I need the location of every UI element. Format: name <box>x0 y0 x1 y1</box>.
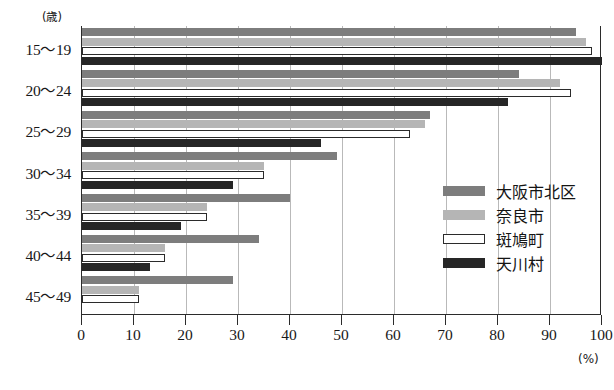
y-axis-tick-label: 25～29 <box>25 119 71 141</box>
bar <box>82 213 207 221</box>
bar <box>82 152 337 160</box>
legend-label: 大阪市北区 <box>496 179 576 203</box>
bar <box>82 70 519 78</box>
legend-label: 斑鳩町 <box>496 227 544 251</box>
bar <box>82 235 259 243</box>
legend-item: 天川村 <box>443 252 591 274</box>
bar <box>82 139 321 147</box>
y-axis-tick-label: 20～24 <box>25 78 71 100</box>
bar-group <box>82 274 600 315</box>
x-axis-tick-label: 20 <box>177 326 193 344</box>
bar <box>82 162 264 170</box>
y-axis-tick-label: 40～44 <box>25 243 71 265</box>
x-axis-tick-labels: 0102030405060708090100 <box>0 326 614 348</box>
chart-legend: 大阪市北区奈良市斑鳩町天川村 <box>443 180 591 276</box>
legend-label: 天川村 <box>496 251 544 275</box>
bar <box>82 276 233 284</box>
y-axis-tick-label: 45～49 <box>25 284 71 306</box>
x-axis-tick-label: 50 <box>333 326 349 344</box>
bar <box>82 254 165 262</box>
bar <box>82 171 264 179</box>
bar-group <box>82 67 600 108</box>
bar-group <box>82 26 600 67</box>
x-axis-tick-label: 80 <box>489 326 505 344</box>
legend-swatch <box>443 234 485 244</box>
legend-swatch <box>443 258 485 268</box>
bar <box>82 98 508 106</box>
bar <box>82 28 576 36</box>
bar <box>82 120 425 128</box>
bar <box>82 203 207 211</box>
bar <box>82 194 290 202</box>
x-axis-tick-label: 90 <box>541 326 557 344</box>
x-axis-tick <box>133 315 134 325</box>
bar <box>82 47 592 55</box>
bar <box>82 79 560 87</box>
x-axis-tick-label: 40 <box>281 326 297 344</box>
y-axis-labels: 15～1920～2425～2930～3435～3940～4445～49 <box>0 26 78 315</box>
x-axis-tick <box>445 315 446 325</box>
legend-label: 奈良市 <box>496 203 544 227</box>
x-axis-tick <box>601 315 602 325</box>
legend-item: 斑鳩町 <box>443 228 591 250</box>
bar <box>82 130 410 138</box>
bar <box>82 38 586 46</box>
bar <box>82 89 571 97</box>
x-axis-tick <box>341 315 342 325</box>
legend-item: 奈良市 <box>443 204 591 226</box>
x-axis-tick-label: 60 <box>385 326 401 344</box>
x-axis-tick-label: 100 <box>589 326 612 344</box>
bar <box>82 222 181 230</box>
x-axis-tick <box>549 315 550 325</box>
bar <box>82 263 150 271</box>
x-axis-tick <box>81 315 82 325</box>
bar <box>82 57 602 65</box>
bar <box>82 181 233 189</box>
x-axis-tick-label: 0 <box>77 326 85 344</box>
bar <box>82 286 139 294</box>
x-axis-tick <box>393 315 394 325</box>
x-axis-tick <box>237 315 238 325</box>
x-axis-tick-label: 10 <box>125 326 141 344</box>
x-axis-tick <box>289 315 290 325</box>
y-axis-unit-label: (歳) <box>42 8 62 24</box>
y-axis-tick-label: 30～34 <box>25 161 71 183</box>
x-axis-tick <box>185 315 186 325</box>
legend-swatch <box>443 186 485 196</box>
bar <box>82 295 139 303</box>
bar-group <box>82 109 600 150</box>
x-axis-tick-label: 30 <box>229 326 245 344</box>
bar <box>82 244 165 252</box>
x-axis-tick-label: 70 <box>437 326 453 344</box>
legend-swatch <box>443 210 485 220</box>
x-axis-unit-label: (%) <box>578 352 599 366</box>
legend-item: 大阪市北区 <box>443 180 591 202</box>
y-axis-tick-label: 35～39 <box>25 202 71 224</box>
x-axis-tick <box>497 315 498 325</box>
bar-chart: (歳) 15～1920～2425～2930～3435～3940～4445～49 … <box>0 0 614 390</box>
y-axis-tick-label: 15～19 <box>25 37 71 59</box>
bar <box>82 111 430 119</box>
